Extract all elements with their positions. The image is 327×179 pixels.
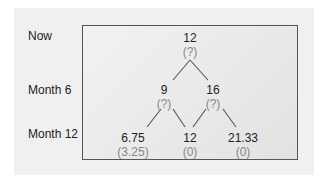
node-now: 12 (?) <box>160 31 220 59</box>
node-month12-up-down: 12 (0) <box>160 131 220 159</box>
node-value: 6.75 <box>103 131 163 145</box>
node-option-value: (0) <box>213 145 273 159</box>
node-month12-down-down: 6.75 (3.25) <box>103 131 163 159</box>
node-month12-up-up: 21.33 (0) <box>213 131 273 159</box>
node-month6-up: 16 (?) <box>183 83 243 111</box>
node-option-value: (?) <box>160 45 220 59</box>
node-value: 16 <box>183 83 243 97</box>
node-value: 12 <box>160 31 220 45</box>
node-option-value: (0) <box>160 145 220 159</box>
node-option-value: (?) <box>183 97 243 111</box>
node-value: 21.33 <box>213 131 273 145</box>
node-option-value: (3.25) <box>103 145 163 159</box>
node-value: 12 <box>160 131 220 145</box>
